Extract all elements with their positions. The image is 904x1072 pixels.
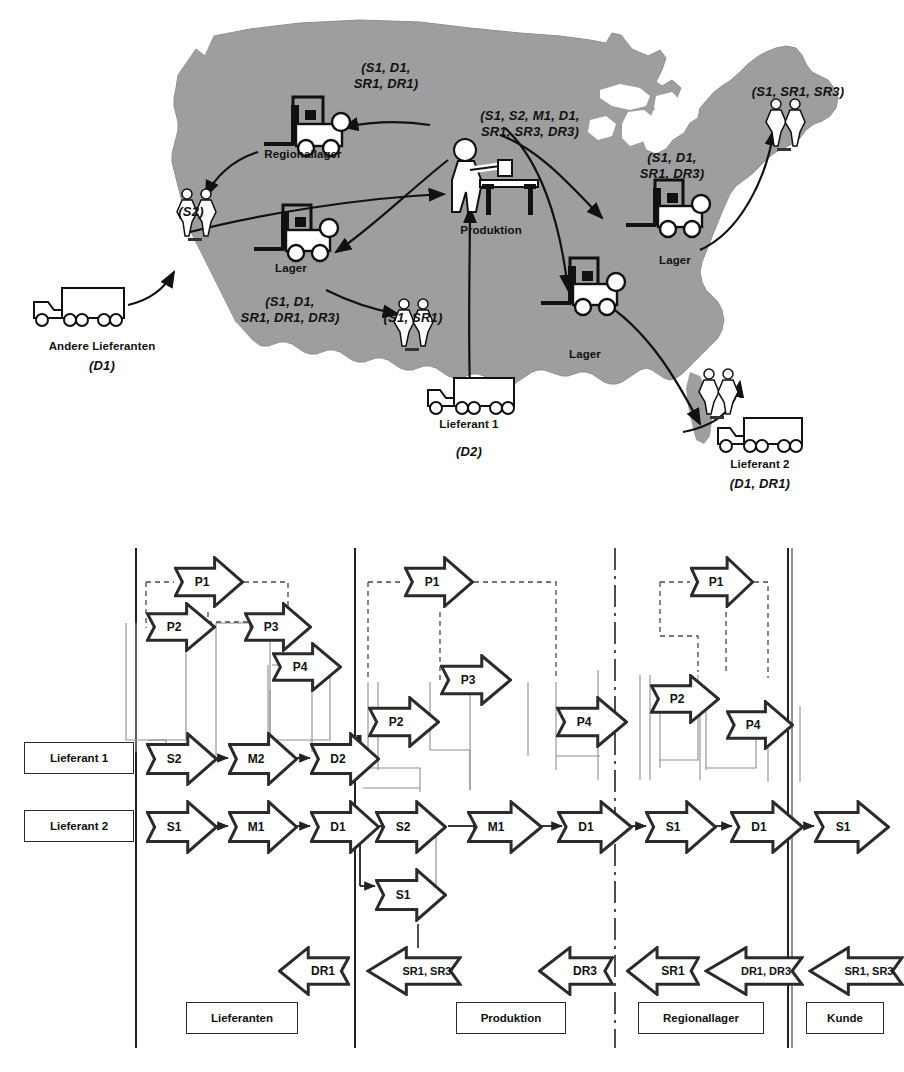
connector-rails-lieferanten (126, 623, 330, 756)
plan-arrow-p4-regionallager[interactable] (727, 702, 792, 749)
process-arrow-m1-produktion[interactable] (469, 802, 542, 852)
plan-arrow-p2-regionallager[interactable] (651, 676, 718, 723)
map-node-label-regionallager: Regionallager (248, 148, 358, 162)
plan-arrow-p2-produktion[interactable] (369, 698, 438, 747)
plan-arrow-p1-regionallager[interactable] (691, 558, 752, 607)
swimlane-label-lieferant-1: Lieferant 1 (24, 742, 134, 774)
map-node-codes-kunde-ne: (S1, SR1, SR3) (718, 84, 878, 100)
truck-icon (718, 418, 802, 452)
map-node-label-andere-lieferanten: Andere Lieferanten (22, 340, 182, 354)
map-node-codes-kunde-central: (S1, SR1) (358, 310, 468, 326)
map-node-label-lager-south: Lager (530, 348, 640, 362)
return-arrow-sr1sr3-kunde[interactable] (810, 948, 902, 995)
scor-thread-graphic (0, 520, 904, 1072)
swimlane-label-lieferant-2: Lieferant 2 (24, 810, 134, 842)
return-arrow-dr3-produktion[interactable] (540, 948, 613, 995)
map-node-label-lieferant-1: Lieferant 1 (414, 418, 524, 432)
plan-arrow-p4-produktion[interactable] (557, 698, 626, 747)
map-node-label-lager-west: Lager (236, 262, 346, 276)
map-node-codes-lieferant-2: (D1, DR1) (700, 476, 820, 492)
return-arrow-dr1-lieferanten[interactable] (279, 948, 348, 995)
process-arrow-d1-produktion[interactable] (559, 802, 632, 852)
stage-label-kunde: Kunde (806, 1002, 884, 1034)
map-node-label-produktion: Produktion (436, 224, 546, 238)
process-arrow-s1-kunde[interactable] (816, 802, 889, 852)
stage-label-regionallager: Regionallager (638, 1002, 764, 1034)
map-node-codes-kunde-nw: (S2) (156, 204, 226, 220)
map-node-codes-regionallager: (S1, D1, SR1, DR1) (318, 60, 454, 91)
process-arrow-m1-lieferant2[interactable] (229, 802, 296, 852)
supply-chain-map-panel: Andere Lieferanten (D1) Regionallager (S… (0, 0, 904, 520)
map-node-label-lieferant-2: Lieferant 2 (700, 458, 820, 472)
process-arrow-s2-lieferant1[interactable] (147, 734, 216, 784)
map-node-codes-lager-east: (S1, D1, SR1, DR3) (604, 150, 740, 181)
process-arrow-s1-regionallager[interactable] (646, 802, 715, 852)
process-arrow-d1-lieferant2[interactable] (311, 802, 378, 852)
map-node-label-lager-east: Lager (620, 254, 730, 268)
return-arrow-sr1-regionallager[interactable] (627, 948, 698, 995)
plan-arrow-p3-lieferanten[interactable] (245, 604, 310, 651)
process-arrow-s2-produktion[interactable] (376, 802, 445, 852)
truck-icon (428, 378, 514, 414)
scor-thread-panel: P1 P2 P3 P4 P1 P2 P3 P4 P1 P2 P4 S2 M2 D… (0, 520, 904, 1072)
return-arrow-sr1sr3-produktion-in[interactable] (368, 948, 460, 995)
plan-arrow-p1-lieferanten[interactable] (175, 558, 242, 607)
map-node-codes-produktion: (S1, S2, M1, D1, SR1, SR3, DR3) (430, 108, 630, 139)
truck-icon (34, 288, 124, 326)
process-arrow-m2-lieferant1[interactable] (229, 734, 296, 784)
map-node-codes-lieferant-1: (D2) (414, 444, 524, 460)
process-arrow-s1-lieferant2[interactable] (147, 802, 216, 852)
stage-label-lieferanten: Lieferanten (186, 1002, 298, 1034)
stage-label-produktion: Produktion (456, 1002, 566, 1034)
plan-arrow-p2-lieferanten[interactable] (147, 604, 214, 651)
process-arrow-s1-produktion-second[interactable] (376, 870, 445, 920)
map-node-codes-lager-west: (S1, D1, SR1, DR1, DR3) (200, 294, 380, 325)
map-node-codes-andere-lieferanten: (D1) (22, 358, 182, 374)
plan-arrow-p1-produktion[interactable] (405, 558, 472, 607)
plan-arrow-p3-produktion[interactable] (441, 656, 510, 705)
